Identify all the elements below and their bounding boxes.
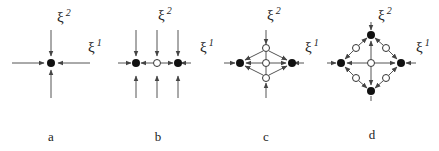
open-node-bottom-left	[353, 75, 360, 82]
open-node-center	[368, 60, 375, 67]
open-node-top-left	[353, 45, 360, 52]
arrow-mid-tr-to-right	[389, 51, 397, 59]
filled-node	[47, 59, 55, 67]
open-node-bottom	[263, 75, 270, 82]
open-node-center	[263, 60, 270, 67]
xi2-label: ξ2	[57, 7, 71, 25]
panel-b: ξ2 ξ1 b	[118, 5, 214, 144]
panel-d: ξ2 ξ1 d	[327, 5, 430, 142]
filled-node-left	[132, 59, 140, 67]
arrow-mid-bl-to-bottom	[359, 81, 367, 88]
xi2-label: ξ2	[267, 5, 281, 23]
panel-label-c: c	[263, 129, 269, 144]
arrow-top-to-right	[269, 51, 287, 60]
open-node-top	[263, 45, 270, 52]
panel-label-d: d	[369, 127, 376, 142]
panel-a: ξ2 ξ1 a	[12, 7, 102, 144]
arrow-bottom-to-right	[269, 66, 287, 75]
arrow-mid-tl-to-top	[359, 38, 367, 45]
panel-label-b: b	[155, 129, 162, 144]
filled-node-left	[236, 59, 244, 67]
xi2-label: ξ2	[158, 5, 172, 23]
open-node-top-right	[383, 45, 390, 52]
panel-label-a: a	[48, 129, 54, 144]
xi1-label: ξ1	[416, 37, 430, 55]
arrow-top-to-left	[245, 51, 263, 60]
arrow-mid-tl-to-left	[345, 51, 353, 59]
filled-node-bottom	[367, 87, 375, 95]
filled-node-top	[367, 31, 375, 39]
diagram-figure: ξ2 ξ1 a ξ2 ξ1 b	[0, 0, 439, 151]
filled-node-right	[288, 59, 296, 67]
arrow-bottom-to-left	[245, 66, 263, 75]
arrow-mid-tr-to-top	[375, 38, 383, 45]
arrow-mid-br-to-bottom	[375, 81, 383, 88]
open-node-center	[154, 60, 161, 67]
panel-c: ξ2 ξ1 c	[224, 5, 319, 144]
open-node-bottom-right	[383, 75, 390, 82]
filled-node-right	[397, 59, 405, 67]
xi2-label: ξ2	[378, 5, 392, 23]
arrow-mid-br-to-right	[389, 67, 397, 75]
filled-node-left	[337, 59, 345, 67]
filled-node-right	[174, 59, 182, 67]
xi1-label: ξ1	[200, 37, 214, 55]
arrow-mid-bl-to-left	[345, 67, 353, 75]
xi1-label: ξ1	[88, 37, 102, 55]
xi1-label: ξ1	[305, 37, 319, 55]
